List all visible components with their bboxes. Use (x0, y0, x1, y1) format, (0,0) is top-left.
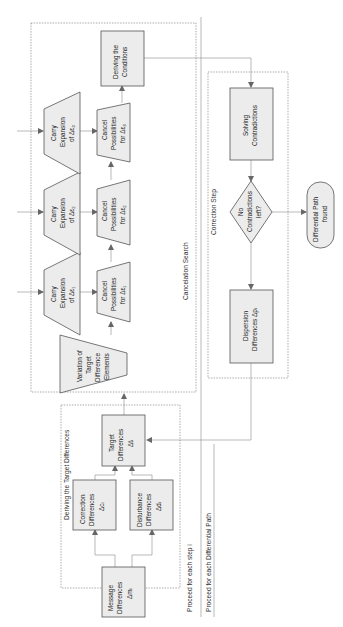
node-target-differences: Target Differences Δtᵢ (102, 415, 145, 466)
svg-text:Differences: Differences (116, 582, 123, 614)
loop-label-path: Proceed for each Differential Path (205, 513, 212, 612)
svg-text:Elements: Elements (103, 353, 110, 380)
node-differential-path-found: Differential Path found (307, 182, 334, 248)
svg-text:Correction: Correction (79, 494, 86, 524)
svg-text:Carry: Carry (50, 206, 58, 222)
svg-text:Possibilities: Possibilities (110, 198, 117, 231)
svg-text:Δcᵢ: Δcᵢ (98, 503, 105, 511)
node-carry-expansion-2: Carry Expansion of Δε₂ (44, 172, 80, 255)
svg-text:of Δε₁: of Δε₁ (68, 287, 75, 303)
svg-text:Contradictions: Contradictions (246, 191, 253, 232)
svg-text:Possibilities: Possibilities (110, 278, 117, 311)
svg-text:of Δε₃: of Δε₃ (68, 125, 75, 142)
loop-label-step: Proceed for each step i (186, 544, 194, 612)
svg-text:Message: Message (107, 585, 115, 611)
svg-text:of Δε₂: of Δε₂ (68, 206, 75, 223)
svg-text:Differences: Differences (88, 494, 95, 526)
svg-text:Variation of: Variation of (76, 350, 83, 382)
svg-text:Carry: Carry (50, 125, 58, 141)
node-message: Message Differences Δmᵢ (102, 567, 145, 617)
node-deriving-conditions: Deriving the Conditions (101, 31, 144, 86)
svg-text:Expansion: Expansion (59, 117, 67, 147)
flow-diagram: Proceed for each step i Proceed for each… (0, 0, 343, 627)
svg-text:Target: Target (85, 356, 93, 374)
svg-text:left?: left? (255, 205, 262, 218)
correction-step-label: Correction Step (210, 189, 218, 235)
svg-text:Possibilities: Possibilities (110, 117, 117, 150)
node-disturbance-differences: Disturbance Differences Δdᵢ (130, 480, 173, 530)
svg-text:Deriving the: Deriving the (112, 44, 120, 79)
svg-text:Conditions: Conditions (121, 47, 128, 77)
svg-text:Differential Path: Differential Path (312, 196, 319, 242)
svg-text:Difference: Difference (94, 353, 101, 382)
svg-text:Carry: Carry (50, 286, 58, 302)
node-carry-expansion-3: Carry Expansion of Δε₃ (44, 92, 80, 174)
node-decision-no-contradictions: No Contradictions left? (230, 181, 272, 243)
node-cancel-possibilities-1: Cancel Possibilities for Δε₁ (97, 262, 130, 322)
svg-text:Differences: Differences (145, 494, 152, 526)
svg-text:No: No (237, 207, 244, 216)
node-dispersion-differences: Dispersion Differences Δpᵢ (230, 290, 273, 363)
svg-text:Δdᵢ: Δdᵢ (155, 502, 162, 511)
svg-text:Cancel: Cancel (101, 201, 108, 221)
svg-text:Differences: Differences (117, 429, 124, 461)
svg-text:for Δε₂: for Δε₂ (119, 205, 126, 224)
svg-text:Differences Δpᵢ: Differences Δpᵢ (251, 308, 259, 351)
svg-text:for Δε₃: for Δε₃ (119, 124, 126, 143)
svg-text:Expansion: Expansion (59, 198, 67, 228)
svg-text:found: found (321, 206, 328, 222)
svg-text:Cancel: Cancel (101, 120, 108, 140)
node-cancel-possibilities-3: Cancel Possibilities for Δε₃ (97, 103, 130, 162)
svg-text:Target: Target (108, 434, 116, 452)
cancelation-search-label: Cancelation Search (182, 242, 189, 300)
node-variation: Variation of Target Difference Elements (60, 335, 127, 393)
node-carry-expansion-1: Carry Expansion of Δε₁ (44, 252, 80, 335)
node-solving-contradictions: Solving Contradictions (230, 88, 273, 160)
node-cancel-possibilities-2: Cancel Possibilities for Δε₂ (97, 180, 130, 245)
svg-text:for Δε₁: for Δε₁ (119, 285, 126, 304)
svg-text:Δtᵢ: Δtᵢ (127, 440, 134, 447)
svg-text:Solving: Solving (242, 115, 250, 136)
svg-text:Dispersion: Dispersion (242, 310, 250, 341)
svg-text:Disturbance: Disturbance (136, 492, 143, 527)
target-differences-label: Deriving the Target Differences (63, 429, 71, 520)
node-correction-differences: Correction Differences Δcᵢ (73, 480, 116, 530)
svg-text:Δmᵢ: Δmᵢ (126, 588, 133, 599)
svg-text:Cancel: Cancel (101, 281, 108, 301)
svg-text:Contradictions: Contradictions (251, 105, 258, 146)
svg-text:Expansion: Expansion (59, 278, 67, 308)
